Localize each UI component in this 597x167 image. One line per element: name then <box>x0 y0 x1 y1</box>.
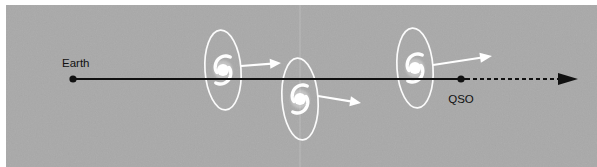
figure-root: EarthQSO <box>0 0 597 167</box>
galaxy-core <box>409 62 421 74</box>
quasar-sightline-diagram: EarthQSO <box>0 0 597 167</box>
qso-label: QSO <box>448 93 474 105</box>
qso-dot <box>457 75 464 82</box>
earth-dot <box>69 75 76 82</box>
galaxy-core <box>294 93 306 105</box>
galaxy-core <box>217 64 229 76</box>
earth-label: Earth <box>62 57 90 69</box>
